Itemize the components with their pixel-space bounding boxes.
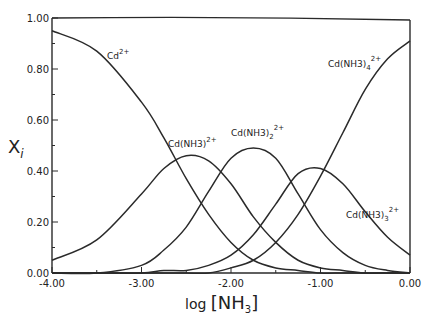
x-axis-label: log [NH3] xyxy=(185,292,258,315)
y-tick-label: 0.80 xyxy=(27,64,49,75)
series-label-2: Cd(NH3)22+ xyxy=(231,124,284,141)
y-axis-label-sub: i xyxy=(20,147,23,161)
series-label-0: Cd2+ xyxy=(107,48,129,61)
x-tick-label: 0.00 xyxy=(399,278,421,289)
x-axis-label-bracket: [NH xyxy=(211,292,245,313)
y-tick-label: 0.20 xyxy=(27,217,49,228)
series-label-4: Cd(NH3)42+ xyxy=(328,55,381,72)
y-axis-label-x: X xyxy=(8,136,20,157)
y-tick-label: 1.00 xyxy=(27,13,49,24)
x-tick-label: -2.00 xyxy=(218,278,244,289)
y-tick-label: 0.40 xyxy=(27,166,49,177)
series-label-1: Cd(NH3)2+ xyxy=(168,136,217,149)
x-axis-label-close: ] xyxy=(251,292,258,313)
sum-line xyxy=(52,17,410,20)
y-tick-label: 0.60 xyxy=(27,115,49,126)
x-tick-label: -3.00 xyxy=(129,278,155,289)
x-tick-label: -4.00 xyxy=(39,278,65,289)
y-axis-label: Xi xyxy=(8,136,24,161)
species-distribution-chart: 0.000.200.400.600.801.00-4.00-3.00-2.00-… xyxy=(0,0,434,331)
x-axis-label-log: log xyxy=(185,296,206,312)
curve-series-4 xyxy=(52,41,410,273)
x-tick-label: -1.00 xyxy=(308,278,334,289)
